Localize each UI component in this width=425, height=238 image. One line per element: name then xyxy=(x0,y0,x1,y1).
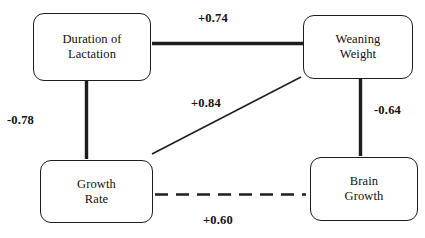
node-growth-rate-label: Growth Rate xyxy=(77,177,116,207)
node-brain-growth[interactable]: Brain Growth xyxy=(310,157,418,221)
node-growth-rate[interactable]: Growth Rate xyxy=(40,160,153,223)
edge-label-lactation-weaning: +0.74 xyxy=(198,11,228,26)
edge-label-growth-brain: +0.60 xyxy=(203,213,233,228)
node-duration-of-lactation-label: Duration of Lactation xyxy=(62,32,121,62)
edge-growth-weaning-line xyxy=(152,77,301,154)
node-brain-growth-label: Brain Growth xyxy=(345,174,384,204)
edge-label-lactation-growth: -0.78 xyxy=(7,113,34,128)
node-weaning-weight-label: Weaning Weight xyxy=(336,32,381,62)
edge-label-growth-weaning: +0.84 xyxy=(191,96,221,111)
path-diagram: Duration of Lactation Weaning Weight Gro… xyxy=(0,0,425,238)
edge-label-weaning-brain: -0.64 xyxy=(374,103,401,118)
node-weaning-weight[interactable]: Weaning Weight xyxy=(303,15,413,79)
node-duration-of-lactation[interactable]: Duration of Lactation xyxy=(33,13,151,81)
